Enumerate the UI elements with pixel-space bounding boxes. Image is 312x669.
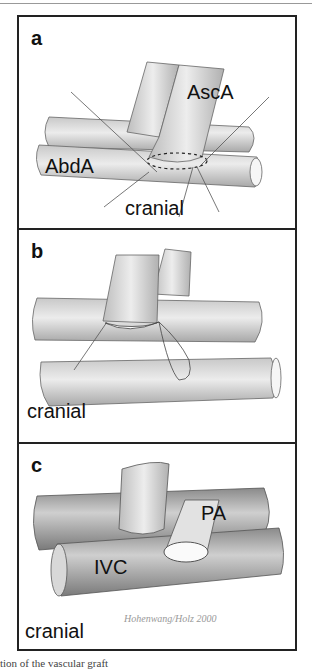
panel-c: Hohenwang/Holz 2000 c PA IVC cranial <box>19 444 295 649</box>
label-cranial: cranial <box>25 620 84 643</box>
label-cranial: cranial <box>27 400 86 423</box>
figure-frame: a AscA AbdA cranial b cranial <box>17 15 297 651</box>
label-cranial: cranial <box>125 197 184 220</box>
panel-label-b: b <box>31 240 43 263</box>
page-top-rule <box>0 3 312 4</box>
figure-caption: tion of the vascular graft <box>0 657 108 669</box>
panel-a: a AscA AbdA cranial <box>19 17 295 230</box>
artist-signature: Hohenwang/Holz 2000 <box>123 613 217 624</box>
panel-b: b cranial <box>19 230 295 444</box>
label-pulmonary-artery: PA <box>201 502 226 525</box>
panel-label-c: c <box>31 454 42 477</box>
label-abdominal-aorta: AbdA <box>45 155 94 178</box>
label-inferior-vena-cava: IVC <box>94 556 127 579</box>
panel-label-a: a <box>31 27 42 50</box>
panel-c-illustration: Hohenwang/Holz 2000 <box>19 444 295 649</box>
label-ascending-aorta: AscA <box>187 81 234 104</box>
